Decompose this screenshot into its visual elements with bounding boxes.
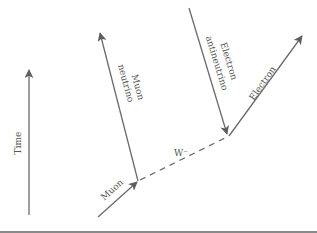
w-boson-label: W⁻ — [174, 148, 188, 158]
w-boson-dashed-line — [140, 137, 227, 180]
electron-line: Electron — [229, 36, 302, 136]
electron-label: Electron — [247, 64, 278, 102]
muon-neutrino-line: Muon neutrino — [100, 33, 146, 181]
feynman-diagram: Time Muon Muon neutrino Electron antineu… — [0, 0, 317, 233]
time-axis: Time — [13, 70, 29, 215]
time-label: Time — [13, 132, 23, 155]
electron-antineutrino-line: Electron antineutrino — [189, 8, 239, 134]
muon-neutrino-arrow-icon — [100, 33, 138, 181]
muon-label: Muon — [99, 177, 125, 202]
muon-line: Muon — [98, 177, 137, 217]
w-boson-propagator: W⁻ — [140, 137, 227, 180]
